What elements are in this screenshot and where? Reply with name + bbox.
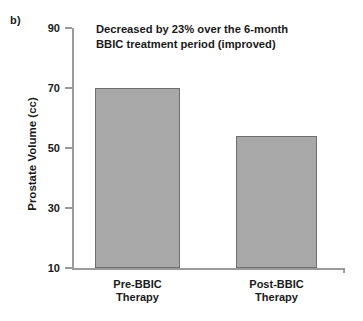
category-label-1: Pre-BBICTherapy <box>78 278 198 304</box>
y-axis-tick: 70 <box>65 87 72 89</box>
category-label-2: Post-BBICTherapy <box>217 278 337 304</box>
plot-area: 9070503010 Pre-BBICTherapyPost-BBICThera… <box>72 28 345 268</box>
bar-2 <box>236 136 317 268</box>
y-axis-tick-label: 30 <box>48 202 60 214</box>
category-label-line: Therapy <box>78 291 198 304</box>
category-label-line: Pre-BBIC <box>78 278 198 291</box>
annotation-line-2: BBIC treatment period (improved) <box>96 37 288 52</box>
chart-annotation: Decreased by 23% over the 6-month BBIC t… <box>96 22 288 52</box>
bar-1 <box>95 88 180 268</box>
y-axis-line <box>72 28 74 268</box>
y-axis-label: Prostate Volume (cc) <box>26 64 38 244</box>
category-label-line: Therapy <box>217 291 337 304</box>
y-axis-tick: 30 <box>65 207 72 209</box>
y-axis-tick-label: 50 <box>48 142 60 154</box>
y-axis-tick-label: 90 <box>48 22 60 34</box>
y-axis-tick: 90 <box>65 27 72 29</box>
y-axis-tick-label: 70 <box>48 82 60 94</box>
x-axis-end-tick <box>343 268 345 273</box>
annotation-line-1: Decreased by 23% over the 6-month <box>96 22 288 37</box>
x-axis-line <box>72 268 345 270</box>
y-axis-tick: 50 <box>65 147 72 149</box>
panel-label: b) <box>10 14 21 26</box>
category-label-line: Post-BBIC <box>217 278 337 291</box>
figure-panel-b: b) Prostate Volume (cc) 9070503010 Pre-B… <box>0 0 363 321</box>
y-axis-tick-label: 10 <box>48 262 60 274</box>
y-axis-tick: 10 <box>65 267 72 269</box>
